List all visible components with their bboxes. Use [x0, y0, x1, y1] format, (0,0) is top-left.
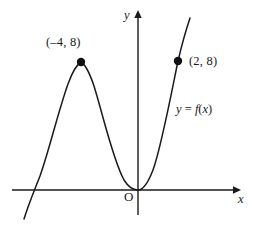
label-point-right: (2, 8) [189, 55, 217, 68]
point-marker-right [174, 57, 182, 65]
y-axis-arrow-icon [134, 10, 141, 18]
label-origin: O [124, 190, 133, 203]
function-graph-figure: (–4, 8) (2, 8) y = f(x) O y x [0, 0, 263, 229]
label-axis-y: y [124, 9, 130, 22]
label-function-equation: y = f(x) [176, 103, 212, 116]
point-marker-local-maximum [77, 58, 85, 66]
label-point-local-maximum: (–4, 8) [46, 36, 81, 49]
label-axis-x: x [238, 193, 244, 206]
equation-equals: = [185, 102, 192, 116]
equation-paren-close: ) [208, 102, 212, 116]
y-axis [134, 10, 141, 215]
